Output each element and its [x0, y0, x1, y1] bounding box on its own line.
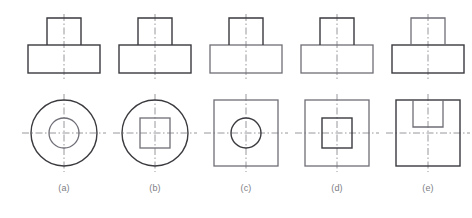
- figure-d: [295, 14, 379, 172]
- figure-caption-b: (b): [125, 182, 185, 194]
- figure-caption-d: (d): [307, 182, 367, 194]
- figure-b: [113, 14, 197, 172]
- figure-caption-e: (e): [398, 182, 458, 194]
- figure-caption-c: (c): [216, 182, 276, 194]
- figure-a: [22, 14, 106, 172]
- figure-caption-row: (a) (b) (c) (d) (e): [0, 182, 472, 202]
- drawing-sheet: (a) (b) (c) (d) (e): [0, 0, 472, 218]
- figure-c: [204, 14, 288, 172]
- figure-e: [386, 14, 470, 172]
- figure-caption-a: (a): [34, 182, 94, 194]
